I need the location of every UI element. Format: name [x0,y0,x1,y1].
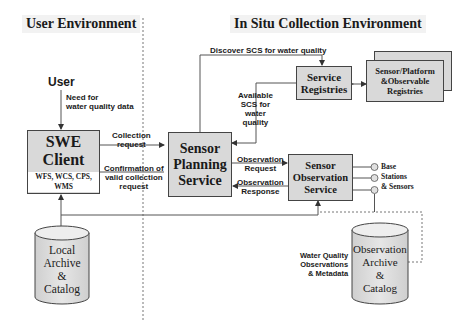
user-environment-heading: User Environment [22,15,140,33]
flow-label-observation-response: Observation Response [237,178,284,196]
swe-client-title-1: SWE [46,133,82,151]
sensor-observation-service-box[interactable]: Sensor Observation Service [288,154,353,201]
swe-client-protocols: WFS, WCS, CPS, WMS [28,172,99,192]
service-registries-title-1: Service [307,71,341,83]
service-registries-title-2: Registries [301,83,347,95]
diagram-canvas: User Environment In Situ Collection Envi… [0,0,471,332]
sps-title-3: Service [178,173,222,189]
local-archive-catalog[interactable]: Local Archive & Catalog [35,244,89,296]
sos-title-3: Service [304,184,337,196]
flow-label-collection-request: Collection request [112,131,151,149]
sos-title-2: Observation [293,172,348,184]
flow-label-water-quality-observations: Water Quality Observations & Metadata [300,251,348,278]
flow-label-confirmation: Confirmation of valid collection request [104,164,164,191]
in-situ-environment-heading: In Situ Collection Environment [230,15,426,33]
flow-label-available-scs: Available SCS for water quality [238,91,273,127]
sps-title-2: Planning [173,157,227,173]
spr-title-3: Registries [387,86,423,96]
base-stations-label: Base Stations & Sensors [381,162,414,192]
swe-client-box[interactable]: SWE Client WFS, WCS, CPS, WMS [27,130,100,194]
spr-title-1: Sensor/Platform [375,66,435,76]
observation-archive-catalog[interactable]: Observation Archive & Catalog [350,243,410,295]
spr-title-2: &Observable [381,76,430,86]
flow-label-discover-scs: Discover SCS for water quality [210,46,326,55]
user-actor: User [48,75,75,89]
flow-label-observation-request: Observation Request [237,155,284,173]
flow-label-need-for-data: Need for water quality data [66,93,134,111]
sps-title-1: Sensor [180,141,220,157]
sensor-planning-service-box[interactable]: Sensor Planning Service [168,132,232,197]
swe-client-title-2: Client [43,151,85,169]
sos-title-1: Sensor [305,160,335,172]
sensor-platform-registries-box[interactable]: Sensor/Platform &Observable Registries [366,60,444,102]
service-registries-box[interactable]: Service Registries [296,66,352,100]
